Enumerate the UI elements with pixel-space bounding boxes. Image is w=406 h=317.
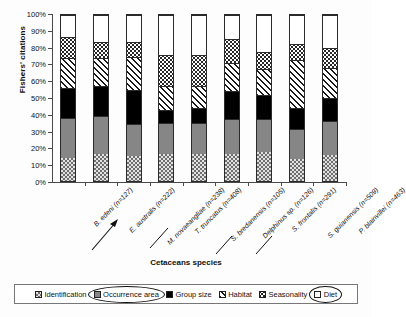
bar-segment-group-size [192, 108, 206, 123]
bar-segment-seasonality [323, 48, 337, 68]
bar-segment-group-size [323, 98, 337, 121]
y-axis-line [52, 14, 53, 182]
legend-item-label: Occurrence area [103, 290, 159, 299]
y-tick [48, 165, 52, 166]
legend-item[interactable]: Diet [314, 290, 337, 299]
bar-segment-habitat [192, 86, 206, 108]
legend-item[interactable]: Seasonality [259, 290, 307, 299]
x-category-label: E. australis (n=222) [128, 186, 176, 234]
bar-segment-habitat [257, 69, 271, 95]
bar-segment-identification [159, 154, 173, 181]
y-tick-label: 0% [16, 178, 46, 187]
stacked-bar [93, 14, 109, 182]
bar-segment-group-size [61, 88, 75, 118]
bar-segment-identification [290, 159, 304, 181]
solid-black-swatch [166, 291, 173, 298]
y-tick-label: 30% [16, 127, 46, 136]
bar-segment-occurrence-area [225, 119, 239, 155]
stacked-bar [224, 14, 240, 182]
chart-legend: IdentificationOccurrence areaGroup sizeH… [14, 284, 358, 304]
bar-segment-diet [192, 15, 206, 55]
y-tick [48, 81, 52, 82]
bar-segment-occurrence-area [192, 123, 206, 155]
legend-item[interactable]: Occurrence area [94, 290, 159, 299]
x-tick [313, 182, 314, 186]
bar-segment-seasonality [225, 39, 239, 63]
y-tick-label: 100% [16, 10, 46, 19]
checkered-swatch [35, 291, 42, 298]
stacked-bar [322, 14, 338, 182]
y-tick [48, 14, 52, 15]
bar-segment-habitat [159, 86, 173, 109]
bar-segment-diet [94, 15, 108, 42]
x-axis-line [52, 182, 346, 183]
y-tick-label: 90% [16, 26, 46, 35]
bar-segment-habitat [290, 60, 304, 108]
bar-segment-habitat [225, 63, 239, 91]
y-tick-label: 80% [16, 43, 46, 52]
bar-segment-diet [159, 15, 173, 55]
bar-segment-group-size [127, 90, 141, 124]
y-tick [48, 48, 52, 49]
legend-item-label: Habitat [228, 290, 252, 299]
bar-segment-occurrence-area [257, 119, 271, 152]
bar-segment-identification [192, 154, 206, 181]
x-tick [85, 182, 86, 186]
y-tick [48, 98, 52, 99]
y-tick-label: 70% [16, 60, 46, 69]
bar-segment-seasonality [290, 44, 304, 60]
y-tick [48, 64, 52, 65]
bar-segment-diet [290, 15, 304, 44]
x-axis-title: Cetaceans species [0, 258, 372, 267]
bar-segment-group-size [225, 91, 239, 118]
diagonal-hatch-swatch [219, 291, 226, 298]
bar-segment-occurrence-area [290, 129, 304, 160]
bar-segment-habitat [61, 58, 75, 88]
bar-segment-group-size [290, 108, 304, 129]
bar-segment-identification [61, 158, 75, 181]
legend-item[interactable]: Group size [166, 290, 212, 299]
bar-segment-diet [225, 15, 239, 39]
x-tick [183, 182, 184, 186]
stacked-bar [60, 14, 76, 182]
x-tick [150, 182, 151, 186]
bar-segment-identification [225, 154, 239, 181]
y-tick [48, 148, 52, 149]
bar-segment-habitat [127, 57, 141, 90]
bar-segment-seasonality [127, 42, 141, 57]
legend-item-label: Group size [175, 290, 211, 299]
bar-segment-occurrence-area [323, 121, 337, 155]
bar-segment-occurrence-area [61, 118, 75, 158]
y-tick-label: 20% [16, 144, 46, 153]
x-tick [117, 182, 118, 186]
bar-segment-diet [257, 15, 271, 52]
dotted-swatch [259, 291, 266, 298]
bar-segment-group-size [159, 110, 173, 123]
bar-segment-group-size [94, 86, 108, 116]
bar-segment-occurrence-area [94, 116, 108, 153]
x-category-label: P. blainvillei (n=463) [357, 186, 406, 235]
x-tick [248, 182, 249, 186]
bar-segment-habitat [94, 58, 108, 86]
bar-segment-identification [127, 156, 141, 181]
stacked-bar [158, 14, 174, 182]
x-tick [346, 182, 347, 186]
bar-segment-seasonality [192, 55, 206, 87]
legend-item[interactable]: Habitat [219, 290, 252, 299]
y-tick [48, 132, 52, 133]
stacked-bar [126, 14, 142, 182]
y-tick-label: 40% [16, 110, 46, 119]
bar-segment-seasonality [159, 55, 173, 87]
stacked-bar [191, 14, 207, 182]
bar-segment-habitat [323, 68, 337, 98]
x-tick [215, 182, 216, 186]
legend-item[interactable]: Identification [35, 290, 87, 299]
bar-segment-identification [257, 152, 271, 181]
bar-segment-diet [61, 15, 75, 37]
legend-item-label: Seasonality [268, 290, 307, 299]
legend-item-label: Identification [44, 290, 86, 299]
bar-segment-seasonality [257, 52, 271, 69]
y-tick-label: 10% [16, 161, 46, 170]
stacked-bar [256, 14, 272, 182]
